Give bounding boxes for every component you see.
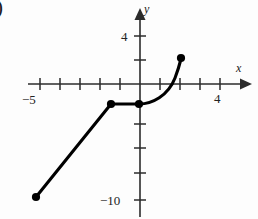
x-axis-arrow-icon xyxy=(240,79,252,90)
x-tick-label-pos4: 4 xyxy=(214,92,221,105)
y-tick-label-pos4: 4 xyxy=(121,30,128,43)
endpoint-dot-origin-level xyxy=(135,100,143,108)
endpoint-dot-left xyxy=(32,193,40,201)
endpoint-dots xyxy=(32,54,185,201)
figure-part-label: ) xyxy=(0,0,3,18)
endpoint-dot-right xyxy=(177,54,185,62)
y-tick-label-neg10: −10 xyxy=(100,194,120,207)
x-axis-label: x xyxy=(236,62,241,74)
graph-svg xyxy=(0,0,258,219)
x-tick-label-neg5: −5 xyxy=(22,93,36,106)
y-axis-label: y xyxy=(144,3,149,15)
figure-canvas: ) −5 4 4 −10 x y xyxy=(0,0,258,219)
endpoint-dot-corner xyxy=(107,100,115,108)
